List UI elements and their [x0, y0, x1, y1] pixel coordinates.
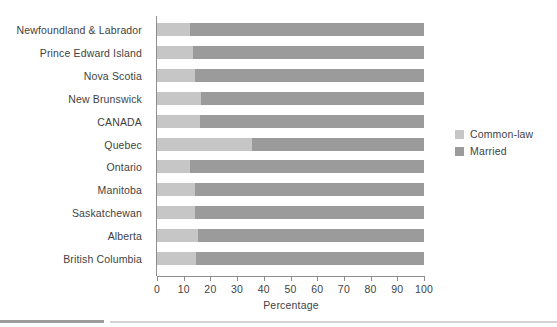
bar-segment-married: [195, 206, 424, 219]
bar-segment-common-law: [157, 252, 196, 265]
category-label: Alberta: [108, 229, 142, 243]
x-tick-label: 60: [302, 283, 332, 295]
bar-row: [157, 229, 424, 242]
bar-segment-common-law: [157, 160, 190, 173]
x-tick-label: 0: [142, 283, 172, 295]
x-tick-label: 90: [382, 283, 412, 295]
x-tick: [264, 276, 265, 281]
category-label: Quebec: [104, 138, 142, 152]
bar-segment-married: [195, 183, 424, 196]
x-tick: [210, 276, 211, 281]
bar-segment-married: [252, 138, 424, 151]
legend-item[interactable]: Common-law: [455, 127, 555, 144]
x-tick: [237, 276, 238, 281]
x-axis-title: Percentage: [157, 299, 425, 311]
category-label: Saskatchewan: [72, 206, 142, 220]
bar-segment-common-law: [157, 138, 252, 151]
legend-label: Married: [470, 144, 507, 159]
plot-area: [157, 20, 424, 272]
x-tick: [291, 276, 292, 281]
x-tick-label: 50: [276, 283, 306, 295]
footer-rule-left: [0, 320, 104, 323]
bar-segment-married: [198, 229, 424, 242]
category-axis-labels: Newfoundland & LabradorPrince Edward Isl…: [0, 20, 150, 272]
footer-rule-right: [110, 321, 557, 323]
bar-row: [157, 115, 424, 128]
x-tick-label: 80: [356, 283, 386, 295]
bar-segment-common-law: [157, 206, 195, 219]
bar-segment-married: [201, 92, 424, 105]
bar-segment-common-law: [157, 229, 198, 242]
bar-row: [157, 46, 424, 59]
bar-segment-married: [196, 252, 424, 265]
bar-segment-married: [190, 160, 424, 173]
bar-segment-common-law: [157, 92, 201, 105]
category-label: Ontario: [107, 160, 142, 174]
bar-row: [157, 183, 424, 196]
bar-row: [157, 69, 424, 82]
bar-row: [157, 23, 424, 36]
x-tick: [397, 276, 398, 281]
x-tick-label: 10: [169, 283, 199, 295]
legend-swatch-icon: [455, 130, 464, 139]
category-label: Manitoba: [98, 183, 142, 197]
bar-segment-married: [195, 69, 424, 82]
x-tick: [317, 276, 318, 281]
legend-swatch-icon: [455, 147, 464, 156]
bar-segment-married: [190, 23, 424, 36]
x-tick: [184, 276, 185, 281]
bar-segment-common-law: [157, 183, 195, 196]
bar-segment-common-law: [157, 23, 190, 36]
x-tick-label: 20: [195, 283, 225, 295]
stacked-bar-chart: Newfoundland & LabradorPrince Edward Isl…: [0, 0, 557, 327]
bar-segment-married: [200, 115, 424, 128]
x-tick: [344, 276, 345, 281]
bar-row: [157, 252, 424, 265]
category-label: New Brunswick: [68, 92, 142, 106]
category-label: Prince Edward Island: [40, 46, 142, 60]
x-tick: [424, 276, 425, 281]
x-tick-label: 100: [409, 283, 439, 295]
bar-segment-married: [193, 46, 424, 59]
chart-legend: Common-lawMarried: [455, 127, 555, 161]
category-label: British Columbia: [63, 252, 142, 266]
legend-item[interactable]: Married: [455, 144, 555, 161]
x-tick-label: 30: [222, 283, 252, 295]
bar-row: [157, 206, 424, 219]
bar-segment-common-law: [157, 69, 195, 82]
bar-row: [157, 92, 424, 105]
bar-row: [157, 138, 424, 151]
bar-row: [157, 160, 424, 173]
bar-segment-common-law: [157, 115, 200, 128]
x-tick: [157, 276, 158, 281]
legend-label: Common-law: [470, 127, 533, 142]
x-tick-label: 40: [249, 283, 279, 295]
x-tick: [371, 276, 372, 281]
category-label: Newfoundland & Labrador: [17, 23, 142, 37]
bar-segment-common-law: [157, 46, 193, 59]
category-label: CANADA: [97, 115, 142, 129]
category-label: Nova Scotia: [84, 69, 142, 83]
x-tick-label: 70: [329, 283, 359, 295]
